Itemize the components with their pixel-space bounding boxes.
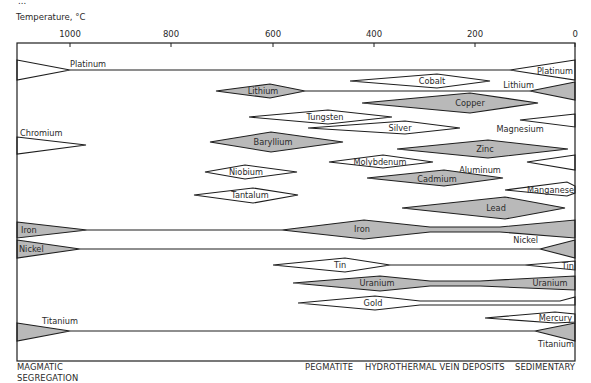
ore-deposit-temperature-diagram: ... Temperature, °C 10008006004002000 Pl… [0,0,591,383]
element-label: Platinum [537,66,573,76]
element-label: Titanium [537,339,574,349]
element-label: Platinum [70,59,106,69]
element-label: Cobalt [419,76,446,86]
title-fragment: ... [18,0,26,6]
element-label: Silver [389,123,413,133]
element-tungsten: Tungsten [249,110,392,124]
element-label: Iron [354,224,370,234]
element-platinum: PlatinumPlatinum [17,59,575,80]
tick-label: 400 [366,29,382,39]
axis-label: Temperature, °C [15,12,85,22]
element-uranium: UraniumUranium [293,276,575,291]
tick-label: 800 [163,29,179,39]
element-chromium: Chromium [17,128,86,154]
element-label: Nickel [19,244,44,254]
element-label: Magnesium [496,124,543,134]
element-label: Tin [561,261,574,271]
element-lead: Lead [402,197,565,219]
footer-labels: MAGMATIC SEGREGATION PEGMATITE HYDROTHER… [17,362,576,383]
tick-label: 1000 [59,29,81,39]
range-shape [402,197,565,219]
element-label: Iron [21,225,37,235]
element-cobalt: Cobalt [350,74,490,88]
footer-hydrothermal: HYDROTHERMAL VEIN DEPOSITS [365,362,505,372]
element-label: Gold [364,298,383,308]
element-label: Zinc [476,144,494,154]
element-niobium: Niobium [205,165,297,179]
range-shape [362,93,538,113]
element-label: Lithium [503,80,534,90]
element-label: Tin [333,260,346,270]
element-label: Molybdenum [354,157,407,167]
element-label: Uranium [359,278,394,288]
tick-label: 600 [265,29,281,39]
element-zinc: Zinc [397,140,568,158]
element-ranges: PlatinumPlatinumCobaltLithiumLithiumCopp… [17,59,575,349]
footer-segregation: SEGREGATION [17,373,78,383]
element-label: Tungsten [305,112,343,122]
footer-pegmatite: PEGMATITE [305,362,353,372]
element-label: Chromium [20,128,63,138]
range-shape [17,60,70,80]
element-label: Lead [486,203,506,213]
element-aluminum: Aluminum [459,155,575,175]
range-shape [17,137,86,154]
element-label: Niobium [229,167,263,177]
element-molybdenum: Molybdenum [329,155,433,168]
range-shape [540,240,575,258]
element-mercury: Mercury [485,312,575,323]
element-label: Cadmium [417,174,456,184]
element-manganese: Manganese [505,182,575,196]
element-label: Manganese [527,185,574,195]
element-titanium: TitaniumTitanium [17,316,575,349]
footer-magmatic: MAGMATIC [17,362,63,372]
element-label: Titanium [41,316,78,326]
range-shape [273,258,390,272]
tick-label: 0 [573,29,578,39]
element-gold: Gold [298,296,575,310]
element-label: Lithium [248,86,279,96]
element-label: Copper [455,98,485,108]
range-shape [298,296,575,310]
element-copper: Copper [362,93,538,113]
element-tantalum: Tantalum [194,188,298,203]
range-shape [527,155,575,170]
element-magnesium: Magnesium [496,114,575,134]
element-label: Tantalum [230,190,269,200]
element-nickel: NickelNickel [17,235,575,258]
element-label: Baryllium [254,137,293,147]
tick-label: 200 [467,29,483,39]
footer-sedimentary: SEDIMENTARY [515,362,576,372]
element-label: Nickel [513,235,538,245]
element-baryllium: Baryllium [210,132,343,152]
element-iron: IronIron [17,220,575,239]
element-label: Mercury [539,313,572,323]
element-label: Uranium [532,278,567,288]
range-shape [530,82,575,100]
axis-ticks: 10008006004002000 [59,29,578,47]
element-tin: TinTin [273,258,575,272]
